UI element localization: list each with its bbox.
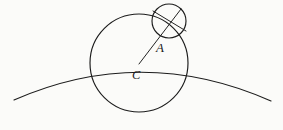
geometry-figure: A C xyxy=(0,0,283,130)
figure-canvas xyxy=(0,0,283,130)
point-label-c: C xyxy=(132,69,140,82)
small-circle-chord xyxy=(153,11,186,31)
ground-arc xyxy=(14,72,271,101)
large-circle xyxy=(90,14,188,112)
point-label-a: A xyxy=(156,41,164,54)
